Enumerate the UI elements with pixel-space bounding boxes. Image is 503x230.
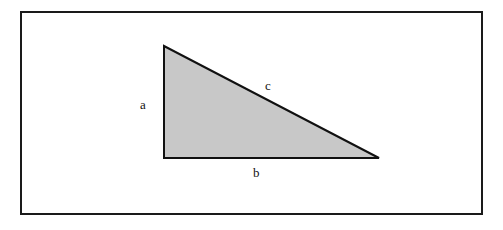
side-label-b: b xyxy=(253,166,260,179)
figure-root: a b c xyxy=(0,0,503,230)
side-label-c: c xyxy=(265,79,271,92)
right-triangle-shape xyxy=(164,46,379,158)
side-label-a: a xyxy=(140,98,146,111)
triangle-diagram-canvas xyxy=(0,0,503,230)
